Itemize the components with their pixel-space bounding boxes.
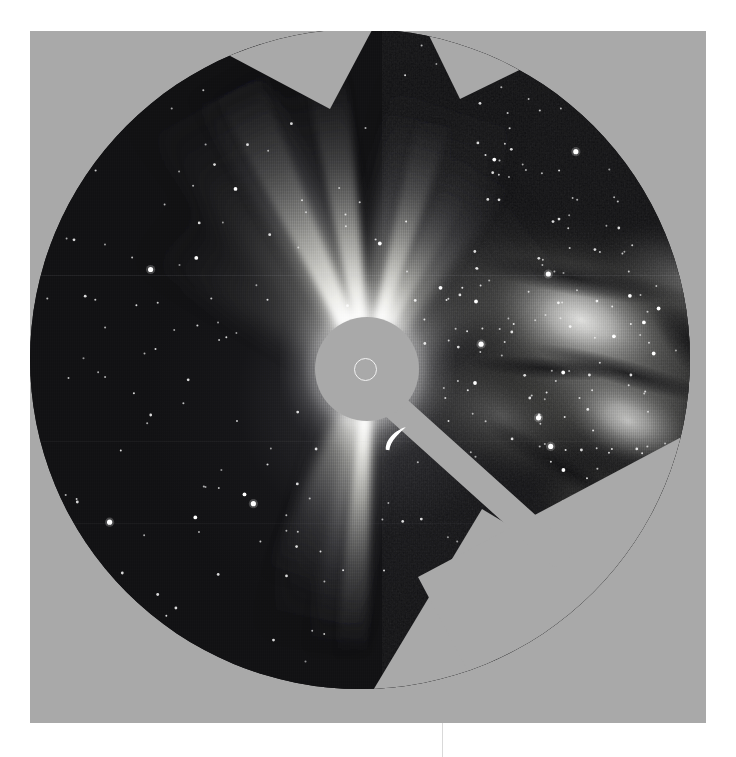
image-plate (30, 31, 706, 723)
register-mark-line (442, 723, 443, 757)
sun-position-marker (354, 358, 377, 381)
coronagraph-field-of-view (30, 31, 690, 689)
screenshot-root (0, 0, 736, 757)
